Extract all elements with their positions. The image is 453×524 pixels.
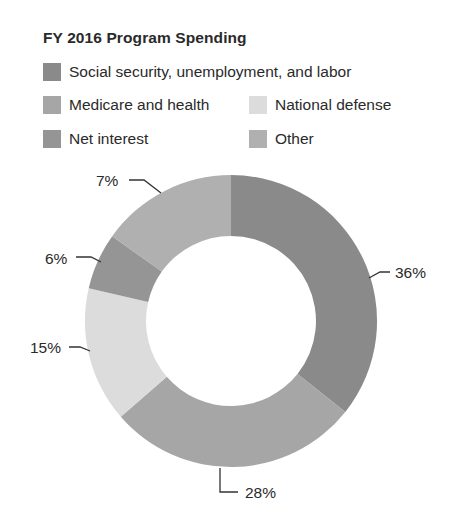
donut-chart: 36% 28% 15% 6% 7%: [0, 0, 453, 524]
leader-7: [129, 180, 161, 193]
label-15: 15%: [30, 339, 61, 356]
label-6: 6%: [45, 250, 68, 267]
label-7: 7%: [96, 172, 119, 189]
leader-28: [220, 468, 238, 492]
label-28: 28%: [245, 484, 276, 501]
label-36: 36%: [395, 264, 426, 281]
slice-social-security: [231, 175, 377, 412]
leader-6: [76, 257, 101, 262]
leader-15: [69, 347, 90, 351]
slice-medicare: [121, 374, 345, 467]
leader-36: [369, 272, 390, 278]
